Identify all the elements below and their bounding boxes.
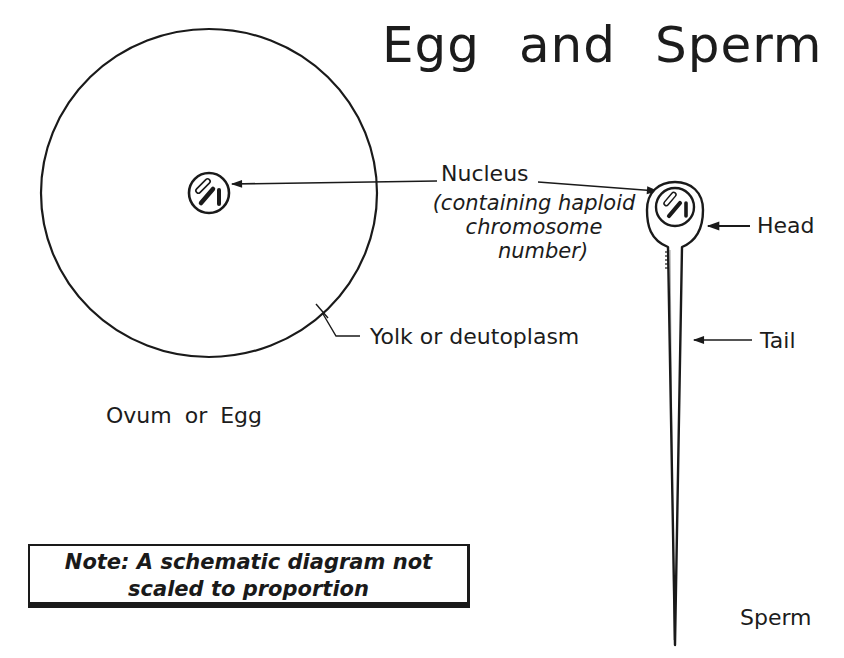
nucleus-description-line: number) xyxy=(428,239,640,263)
diagram-title: Egg and Sperm xyxy=(382,20,823,70)
nucleus-description: (containing haploid chromosome number) xyxy=(428,191,640,263)
yolk-pointer xyxy=(316,304,360,336)
note-line: Note: A schematic diagram not xyxy=(30,549,467,576)
yolk-label: Yolk or deutoplasm xyxy=(370,326,579,348)
egg-caption: Ovum or Egg xyxy=(106,405,262,427)
nucleus-description-line: (containing haploid xyxy=(428,191,640,215)
note-box: Note: A schematic diagram not scaled to … xyxy=(28,544,470,608)
sperm-nucleus-icon xyxy=(656,188,694,226)
sperm-outline xyxy=(647,182,703,645)
sperm-nucleus-pointer xyxy=(538,182,657,191)
egg-nucleus-icon xyxy=(189,173,229,213)
egg-nucleus-pointer xyxy=(232,181,437,184)
nucleus-label: Nucleus xyxy=(441,163,529,185)
nucleus-description-line: chromosome xyxy=(428,215,640,239)
sperm-caption: Sperm xyxy=(740,607,812,629)
note-line: scaled to proportion xyxy=(30,576,467,603)
sperm-head-label: Head xyxy=(757,215,815,237)
sperm-tail-label: Tail xyxy=(760,330,796,352)
